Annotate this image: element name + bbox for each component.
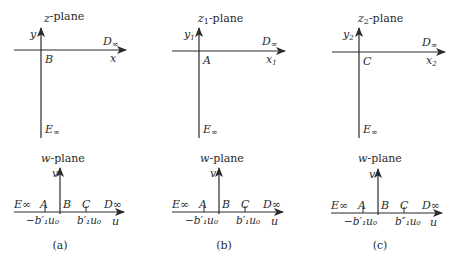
d-infinity-label: D∞ bbox=[102, 35, 119, 49]
plane-title: w-plane bbox=[41, 152, 85, 165]
x-axis-label: x bbox=[110, 52, 117, 65]
e-infinity-label: E∞ bbox=[44, 123, 60, 137]
v-axis-label: v bbox=[210, 167, 217, 180]
point-e-infinity: E∞ bbox=[171, 198, 189, 211]
tick-label-right: b′₁u₀ bbox=[236, 214, 261, 226]
plane-title: w-plane bbox=[200, 152, 244, 165]
origin-label: B bbox=[44, 53, 53, 66]
origin-label: C bbox=[363, 55, 372, 68]
u-axis-label: u bbox=[112, 215, 119, 228]
panel-a: z-plane y x B D∞ E∞ w-plane v u E∞ A B C… bbox=[13, 10, 126, 252]
caption: (a) bbox=[52, 239, 67, 252]
d-infinity-label: D∞ bbox=[421, 36, 438, 50]
z2-plane-c: z2-plane y2 x2 C D∞ E∞ bbox=[332, 12, 445, 138]
plane-title: z1-plane bbox=[197, 12, 243, 26]
tick-label-left: −b′₁u₀ bbox=[26, 214, 60, 226]
x2-axis-label: x2 bbox=[426, 54, 437, 68]
x1-axis-label: x1 bbox=[266, 53, 277, 67]
z1-plane-b: z1-plane y1 x1 A D∞ E∞ bbox=[172, 12, 285, 138]
v-axis-label: v bbox=[52, 167, 59, 180]
plane-title: z2-plane bbox=[357, 12, 403, 26]
point-e-infinity: E∞ bbox=[13, 198, 31, 211]
z-plane-a: z-plane y x B D∞ E∞ bbox=[14, 10, 126, 138]
origin-label: A bbox=[202, 54, 211, 67]
point-c: C bbox=[400, 199, 409, 212]
w-plane-b: w-plane v u E∞ A B C D∞ −b′₁u₀ b′₁u₀ (b) bbox=[171, 152, 283, 252]
point-a: A bbox=[39, 198, 48, 211]
y-axis-label: y bbox=[29, 28, 37, 41]
d-infinity-label: D∞ bbox=[261, 35, 278, 49]
tick-label-left: −b′₁u₀ bbox=[344, 215, 378, 227]
v-axis-label: v bbox=[369, 168, 376, 181]
y2-axis-label: y2 bbox=[342, 28, 354, 42]
point-d-infinity: D∞ bbox=[262, 198, 281, 211]
point-d-infinity: D∞ bbox=[421, 199, 440, 212]
w-plane-a: w-plane v u E∞ A B C D∞ −b′₁u₀ b′₁u₀ (a) bbox=[13, 152, 124, 252]
point-a: A bbox=[198, 198, 207, 211]
u-axis-label: u bbox=[271, 215, 278, 228]
point-d-infinity: D∞ bbox=[103, 198, 122, 211]
tick-label-right: b′₁u₀ bbox=[77, 214, 102, 226]
tick-label-left: −b′₁u₀ bbox=[185, 214, 219, 226]
tick-label-right: b″₁u₀ bbox=[395, 215, 422, 227]
w-plane-c: w-plane v u E∞ A B C D∞ −b′₁u₀ b″₁u₀ (c) bbox=[330, 152, 442, 252]
caption: (b) bbox=[216, 239, 232, 252]
point-e-infinity: E∞ bbox=[330, 199, 348, 212]
u-axis-label: u bbox=[430, 216, 437, 229]
panel-b: z1-plane y1 x1 A D∞ E∞ w-plane v u E∞ A … bbox=[171, 12, 285, 252]
panel-c: z2-plane y2 x2 C D∞ E∞ w-plane v u E∞ A … bbox=[330, 12, 445, 252]
point-a: A bbox=[357, 199, 366, 212]
point-c: C bbox=[241, 198, 250, 211]
e-infinity-label: E∞ bbox=[202, 123, 218, 137]
plane-title: z-plane bbox=[43, 10, 84, 25]
conformal-mapping-diagram: z-plane y x B D∞ E∞ w-plane v u E∞ A B C… bbox=[0, 0, 456, 268]
plane-title: w-plane bbox=[358, 152, 402, 165]
point-b: B bbox=[221, 198, 230, 211]
point-b: B bbox=[380, 199, 389, 212]
caption: (c) bbox=[373, 239, 388, 252]
y1-axis-label: y1 bbox=[183, 28, 195, 42]
e-infinity-label: E∞ bbox=[362, 123, 378, 137]
point-b: B bbox=[62, 198, 71, 211]
point-c: C bbox=[82, 198, 91, 211]
